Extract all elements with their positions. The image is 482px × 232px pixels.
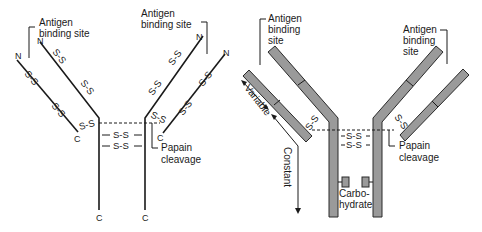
antigen-label-left: Antigen: [268, 13, 302, 24]
antigen-label-left: Antigen: [39, 17, 73, 28]
antigen-label-left: binding: [268, 24, 300, 35]
intrachain-disulfide: S-S: [166, 48, 184, 67]
intrachain-disulfide: S-S: [176, 98, 194, 117]
intrachain-disulfide: S-S: [50, 46, 68, 65]
antigen-bracket-left: [260, 19, 266, 65]
antigen-label-right: binding: [403, 35, 435, 46]
carbohydrate-label: Carbo-: [339, 188, 370, 199]
antigen-label-right: Antigen: [141, 8, 175, 19]
n-terminal-label: N: [223, 48, 230, 58]
papain-label: Papain: [161, 142, 192, 153]
n-terminal-label: N: [196, 32, 203, 42]
antigen-label-left: binding site: [39, 28, 90, 39]
antigen-bracket-left: [29, 27, 35, 58]
carbohydrate-left: [342, 177, 349, 187]
antigen-bracket-right: [440, 30, 447, 64]
n-terminal-label: N: [15, 51, 22, 61]
papain-label: cleavage: [161, 154, 201, 165]
antibody-diagram: S-S S-S S-S S-S S-S S-S S-S S-S S-S S-S …: [0, 0, 482, 232]
carbohydrate-label: hydrate: [339, 199, 373, 210]
antigen-label-left: site: [268, 35, 284, 46]
c-terminal-label: C: [96, 213, 103, 223]
carbohydrate-right: [362, 177, 369, 187]
c-terminal-label: C: [74, 134, 81, 144]
left-antibody-line-diagram: S-S S-S S-S S-S S-S S-S S-S S-S S-S S-S …: [15, 8, 230, 223]
constant-label: Constant: [282, 147, 293, 187]
antigen-label-right: binding site: [141, 19, 192, 30]
papain-label: cleavage: [399, 152, 439, 163]
left-light-chain: [17, 60, 78, 132]
light-heavy-disulfide: S-S: [78, 117, 96, 132]
papain-label: Papain: [399, 140, 430, 151]
antigen-label-right: site: [403, 46, 419, 57]
papain-pointer: [389, 130, 395, 146]
hinge-disulfide-2: S-S: [346, 139, 362, 150]
hinge-disulfide-1: S-S: [113, 129, 129, 140]
hinge-disulfide-2: S-S: [113, 140, 129, 151]
right-antibody-block-diagram: S-S S-S S-S S-S Carbo- hydrate Variable …: [241, 13, 469, 217]
c-terminal-label: C: [142, 213, 149, 223]
antigen-label-right: Antigen: [403, 24, 437, 35]
